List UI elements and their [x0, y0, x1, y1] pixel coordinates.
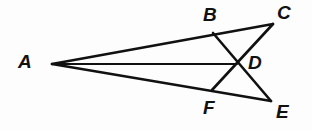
- segment-a-e: [52, 64, 271, 101]
- figure-canvas: [0, 0, 312, 131]
- segment-b-e: [213, 33, 271, 101]
- vertex-label-b: B: [203, 5, 217, 24]
- geometry-figure: A B C D E F: [0, 0, 312, 131]
- vertex-label-e: E: [276, 102, 289, 121]
- vertex-label-f: F: [203, 98, 215, 117]
- vertex-label-c: C: [277, 3, 291, 22]
- vertex-label-d: D: [248, 53, 262, 72]
- vertex-label-a: A: [18, 52, 32, 71]
